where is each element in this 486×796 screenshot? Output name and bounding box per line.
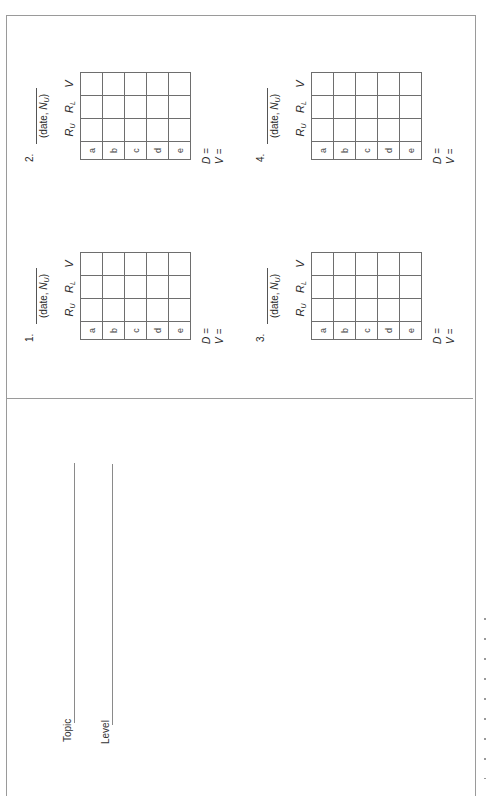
cell-input[interactable] [81,276,103,299]
cell-input[interactable] [125,96,147,119]
cell-input[interactable] [400,119,422,142]
n-subscript: U [43,277,50,282]
cell-input[interactable] [378,73,400,96]
cell-input[interactable] [312,96,334,119]
cell-input[interactable] [334,276,356,299]
cell-input[interactable] [169,299,191,322]
cell-input[interactable] [147,299,169,322]
section-divider [7,398,473,399]
table-row: d [147,73,169,160]
cell-input[interactable] [356,253,378,276]
n-symbol: N [269,102,280,109]
col-header-ru: RU [293,299,307,321]
cell-input[interactable] [312,253,334,276]
col-symbol: R [63,105,75,113]
table-row: a [81,253,103,340]
cell-input[interactable] [400,276,422,299]
cell-input[interactable] [125,119,147,142]
topic-input-line[interactable] [74,463,75,723]
cell-input[interactable] [125,73,147,96]
cell-input[interactable] [356,73,378,96]
cell-input[interactable] [103,96,125,119]
cell-input[interactable] [400,73,422,96]
row-label: d [378,322,400,340]
cell-input[interactable] [81,253,103,276]
row-label: e [400,142,422,160]
cell-input[interactable] [378,96,400,119]
cell-input[interactable] [169,276,191,299]
col-header-ru: RU [62,119,76,141]
col-header-v: V [62,253,76,275]
cell-input[interactable] [81,96,103,119]
cell-input[interactable] [378,299,400,322]
row-label: a [312,322,334,340]
col-header-v: V [293,73,307,95]
n-symbol: N [269,282,280,289]
col-symbol: R [63,129,75,137]
cell-input[interactable] [356,96,378,119]
col-symbol: R [63,285,75,293]
cell-input[interactable] [103,119,125,142]
cell-input[interactable] [312,276,334,299]
col-symbol: V [63,80,75,87]
cell-input[interactable] [334,299,356,322]
table-row: c [356,73,378,160]
cell-input[interactable] [312,119,334,142]
cell-input[interactable] [125,299,147,322]
cell-input[interactable] [147,253,169,276]
col-symbol: R [294,105,306,113]
col-subscript: L [300,101,307,105]
cell-input[interactable] [103,253,125,276]
date-caption: (date, NU) [36,268,51,324]
cell-input[interactable] [356,299,378,322]
row-label: c [356,322,378,340]
cell-input[interactable] [147,119,169,142]
cell-input[interactable] [169,96,191,119]
cell-input[interactable] [147,96,169,119]
cell-input[interactable] [356,119,378,142]
cell-input[interactable] [312,299,334,322]
row-label: b [103,322,125,340]
cell-input[interactable] [312,73,334,96]
col-symbol: R [63,309,75,317]
cell-input[interactable] [147,276,169,299]
cell-input[interactable] [125,253,147,276]
cell-input[interactable] [378,253,400,276]
table-row: d [147,253,169,340]
cell-input[interactable] [103,299,125,322]
cell-input[interactable] [334,73,356,96]
cell-input[interactable] [400,96,422,119]
cell-input[interactable] [378,276,400,299]
level-input-line[interactable] [112,464,113,725]
row-label: a [312,142,334,160]
table-row: b [334,73,356,160]
cell-input[interactable] [169,253,191,276]
cell-input[interactable] [125,276,147,299]
cell-input[interactable] [400,299,422,322]
table-row: e [169,73,191,160]
cell-input[interactable] [81,299,103,322]
row-label: e [169,322,191,340]
cell-input[interactable] [169,73,191,96]
row-label: d [378,142,400,160]
cell-input[interactable] [356,276,378,299]
cell-input[interactable] [400,253,422,276]
row-label: e [169,142,191,160]
cell-input[interactable] [334,253,356,276]
col-header-rl: RL [62,96,76,118]
cell-input[interactable] [147,73,169,96]
cell-input[interactable] [103,73,125,96]
cell-input[interactable] [334,96,356,119]
cell-input[interactable] [378,119,400,142]
row-label: b [334,322,356,340]
table-row: d [378,253,400,340]
level-label: Level [100,720,112,744]
block-number: 1. [24,334,36,342]
cell-input[interactable] [334,119,356,142]
cell-input[interactable] [81,119,103,142]
cell-input[interactable] [169,119,191,142]
cell-input[interactable] [81,73,103,96]
n-symbol: N [38,102,49,109]
cell-input[interactable] [103,276,125,299]
table-row: b [103,73,125,160]
